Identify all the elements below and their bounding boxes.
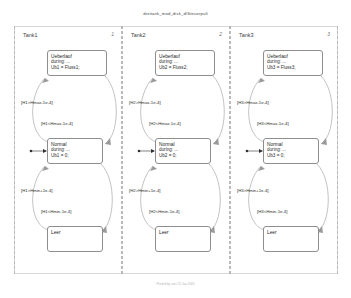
transition-guard: [H2>Hmax-1e-4] (129, 100, 161, 105)
transition-guard: [H3>Hmax-1e-4] (237, 100, 269, 105)
subchart-tank1[interactable]: Tank1 1 Ueberlauf during: ... Ub1 = Flus… (14, 26, 122, 274)
subchart-execution-order: 2 (219, 31, 222, 37)
subchart-label: Tank1 (23, 32, 37, 38)
state-action-line: Ub2 = Fluss2; (159, 65, 211, 70)
state-action-line: Ub2 = 0; (159, 153, 207, 158)
state-ueberlauf[interactable]: Ueberlauf during: ... Ub3 = Fluss3; (263, 50, 323, 76)
transition-guard: [H1<Hmin-1e-4] (41, 209, 71, 214)
state-leer[interactable]: Leer (263, 226, 319, 252)
state-normal[interactable]: Normal during: ... Ub3 = 0; (263, 138, 319, 164)
state-normal[interactable]: Normal during: ... Ub2 = 0; (155, 138, 211, 164)
state-name: Leer (267, 230, 315, 236)
page-title: dreitank_mod_disk_d/Steuerpult (0, 11, 351, 16)
state-name: Leer (51, 230, 99, 236)
state-action-line: Ub3 = 0; (267, 153, 315, 158)
subchart-label: Tank2 (131, 32, 145, 38)
transition-guard: [H1<Hmax-1e-4] (41, 121, 73, 126)
state-name: Leer (159, 230, 207, 236)
subchart-tank3[interactable]: Tank3 3 Ueberlauf during: ... Ub3 = Flus… (230, 26, 338, 274)
state-action-line: Ub1 = 0; (51, 153, 99, 158)
page-footer: Printed by user 22-Jun-2005 (0, 282, 351, 286)
state-ueberlauf[interactable]: Ueberlauf during: ... Ub1 = Fluss1; (47, 50, 107, 76)
transition-guard: [H1>Hmax-1e-4] (21, 100, 53, 105)
transition-guard: [H2<Hmin-1e-4] (149, 209, 179, 214)
transition-guard: [H2>Hmin+1e-4] (129, 188, 161, 193)
transition-guard: [H3<Hmax-1e-4] (257, 121, 289, 126)
stateflow-printout-page: dreitank_mod_disk_d/Steuerpult Tank1 1 U… (0, 0, 351, 298)
state-ueberlauf[interactable]: Ueberlauf during: ... Ub2 = Fluss2; (155, 50, 215, 76)
subchart-execution-order: 3 (327, 31, 330, 37)
subchart-tank2[interactable]: Tank2 2 Ueberlauf during: ... Ub2 = Flus… (122, 26, 230, 274)
subchart-label: Tank3 (239, 32, 253, 38)
state-leer[interactable]: Leer (155, 226, 211, 252)
transition-guard: [H1>Hmin+1e-4] (21, 188, 53, 193)
transition-guard: [H3<Hmin-1e-4] (257, 209, 287, 214)
subchart-execution-order: 1 (111, 31, 114, 37)
state-normal[interactable]: Normal during: ... Ub1 = 0; (47, 138, 103, 164)
state-leer[interactable]: Leer (47, 226, 103, 252)
transition-guard: [H2<Hmax-1e-4] (149, 121, 181, 126)
state-action-line: Ub3 = Fluss3; (267, 65, 319, 70)
transition-guard: [H3>Hmin+1e-4] (237, 188, 269, 193)
state-action-line: Ub1 = Fluss1; (51, 65, 103, 70)
